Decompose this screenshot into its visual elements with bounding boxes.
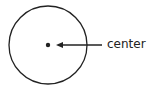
arrowhead-icon	[56, 42, 63, 48]
center-point	[46, 43, 50, 47]
center-label: center	[107, 37, 146, 51]
